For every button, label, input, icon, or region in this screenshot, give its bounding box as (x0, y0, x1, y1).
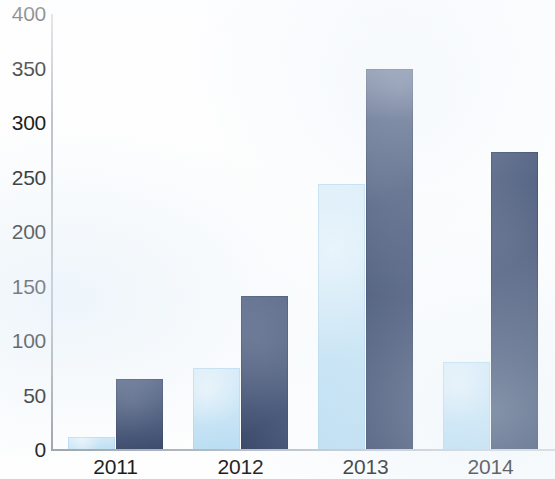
bar-chart: Grouped bar chart with four year categor… (0, 0, 555, 479)
y-tick-label: 200 (2, 221, 46, 242)
bar-group-2013 (303, 14, 428, 450)
bar-group-2011 (53, 14, 178, 450)
bar-2014-series-1[interactable] (443, 362, 490, 450)
y-tick-label: 250 (2, 167, 46, 188)
bar-group-2014 (428, 14, 553, 450)
y-tick-label: 300 (2, 112, 46, 133)
plot-area (53, 14, 553, 450)
x-tick-label-2014: 2014 (428, 455, 553, 479)
y-axis-tick-labels: 050100150200250300350400 (0, 0, 46, 479)
y-tick-label: 0 (2, 439, 46, 460)
x-tick-label-2013: 2013 (303, 455, 428, 479)
x-tick-label-2012: 2012 (178, 455, 303, 479)
x-tick-label-2011: 2011 (53, 455, 178, 479)
bar-2014-series-2[interactable] (491, 152, 538, 450)
bar-group-2012 (178, 14, 303, 450)
y-tick-label: 100 (2, 330, 46, 351)
y-tick-label: 400 (2, 3, 46, 24)
bar-2012-series-2[interactable] (241, 296, 288, 450)
bar-2012-series-1[interactable] (193, 368, 240, 450)
bar-2013-series-2[interactable] (366, 69, 413, 451)
x-axis-tick-labels: 2011201220132014 (53, 455, 553, 479)
y-tick-label: 50 (2, 385, 46, 406)
x-axis-line (51, 449, 555, 451)
y-tick-label: 150 (2, 276, 46, 297)
y-axis-line (51, 14, 53, 451)
bar-2011-series-2[interactable] (116, 379, 163, 450)
bar-2013-series-1[interactable] (318, 184, 365, 450)
y-tick-label: 350 (2, 58, 46, 79)
